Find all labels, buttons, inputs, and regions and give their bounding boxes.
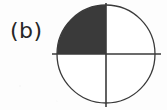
panel-label: (b) (10, 19, 43, 43)
quartered-circle-diagram (0, 0, 167, 110)
quadrant-upper-left-shaded (57, 5, 106, 54)
figure-panel: (b) (0, 0, 167, 110)
